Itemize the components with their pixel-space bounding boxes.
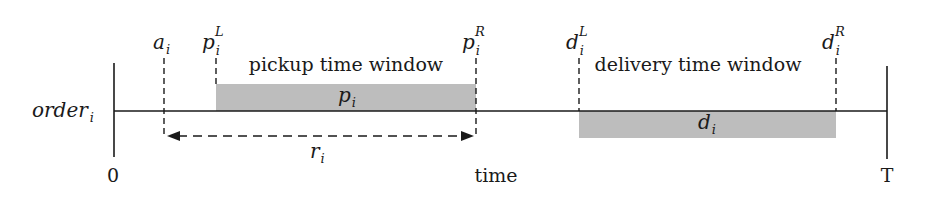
pickup-window-title: pickup time window [249,53,444,75]
marker-a-label: ai [153,30,170,57]
arrow-left-head-icon [167,131,180,141]
marker-dR-label: diR [822,24,845,58]
axis-title: time [475,164,518,186]
arrow-right-head-icon [461,131,474,141]
axis-start-label: 0 [107,164,119,186]
marker-pR-label: piR [462,24,485,58]
axis-end-label: T [881,164,894,186]
marker-pL-label: piL [202,24,224,58]
delivery-window-title: delivery time window [595,53,803,75]
order-timeline-diagram: orderi ai piL piR diL diR pickup time wi… [0,0,929,197]
row-label: orderi [32,98,94,125]
interval-r-label: ri [310,139,325,166]
marker-dL-label: diL [566,24,588,58]
